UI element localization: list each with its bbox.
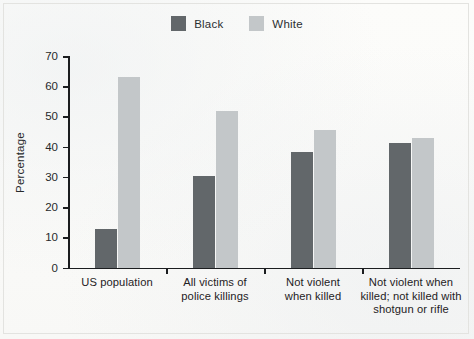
x-category-label-line: killed; not killed with	[348, 290, 474, 304]
bar-black-group-2	[193, 176, 215, 268]
legend-swatch-white	[249, 16, 264, 31]
chart-legend: Black White	[0, 16, 474, 31]
bar-black-group-3	[291, 152, 313, 268]
legend-label-black: Black	[194, 18, 223, 30]
x-tick	[166, 269, 168, 274]
y-tick: 70	[63, 56, 68, 58]
legend-item-black: Black	[171, 16, 223, 31]
bar-black-group-4	[389, 143, 411, 267]
legend-swatch-black	[171, 16, 186, 31]
legend-item-white: White	[249, 16, 302, 31]
x-tick	[362, 269, 364, 274]
y-tick: 50	[63, 116, 68, 118]
x-category-label-line: Not violent when	[348, 276, 474, 290]
x-category-label-4: Not violent whenkilled; not killed withs…	[348, 276, 474, 317]
y-tick-label: 40	[45, 141, 58, 153]
bar-white-group-1	[118, 77, 140, 267]
plot-area: 010203040506070	[68, 56, 460, 269]
y-tick-label: 30	[45, 171, 58, 183]
y-tick-label: 20	[45, 201, 58, 213]
y-tick: 30	[63, 177, 68, 179]
y-tick: 10	[63, 237, 68, 239]
chart-page: Black White Percentage 010203040506070 U…	[0, 0, 474, 339]
y-tick: 20	[63, 207, 68, 209]
x-tick	[264, 269, 266, 274]
y-tick: 40	[63, 147, 68, 149]
y-tick: 0	[63, 268, 68, 270]
y-tick-label: 0	[52, 262, 58, 274]
bar-white-group-3	[314, 130, 336, 267]
y-tick-label: 60	[45, 80, 58, 92]
y-axis-line	[68, 56, 70, 269]
bar-white-group-2	[216, 111, 238, 268]
y-tick-label: 50	[45, 110, 58, 122]
bar-black-group-1	[95, 229, 117, 267]
y-tick-label: 10	[45, 231, 58, 243]
x-category-label-line: shotgun or rifle	[348, 303, 474, 317]
y-tick: 60	[63, 86, 68, 88]
y-tick-label: 70	[45, 50, 58, 62]
bar-white-group-4	[412, 138, 434, 268]
y-axis-title: Percentage	[14, 56, 28, 269]
legend-label-white: White	[272, 18, 302, 30]
